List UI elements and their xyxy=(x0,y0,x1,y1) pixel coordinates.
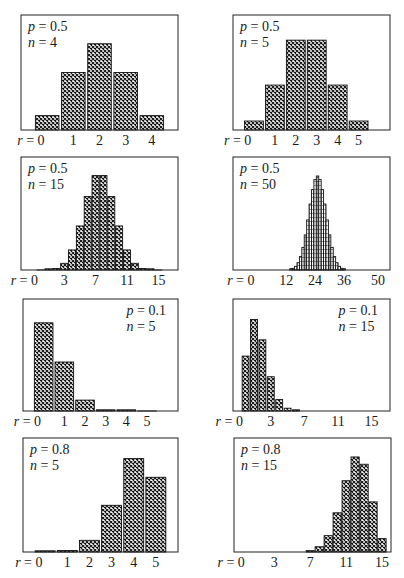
n-value-label: n = 50 xyxy=(240,177,279,193)
bar-r-3 xyxy=(307,40,326,130)
chart-panel-p0.1-n15: p = 0.1n = 15r = 0371115 xyxy=(233,299,390,411)
x-tick-label: 3 xyxy=(267,415,274,429)
x-tick-label: 50 xyxy=(371,274,385,288)
bar-r-2 xyxy=(88,44,112,130)
bar-r-1 xyxy=(251,319,258,411)
bar-r-0 xyxy=(242,356,249,411)
bar-r-11 xyxy=(342,481,350,552)
bar-r-8 xyxy=(100,176,107,270)
x-tick-label: 2 xyxy=(292,134,299,148)
n-value-label: n = 5 xyxy=(30,458,69,474)
bar-r-2 xyxy=(259,340,266,411)
bar-r-4 xyxy=(69,250,76,270)
bar-r-10 xyxy=(116,226,123,270)
n-value-label: n = 4 xyxy=(28,35,67,51)
x-tick-label: 3 xyxy=(102,415,109,429)
x-tick-label: 24 xyxy=(308,274,322,288)
bar-r-8 xyxy=(315,547,323,552)
p-value-label: p = 0.5 xyxy=(28,161,67,177)
bar-r-2 xyxy=(79,540,99,552)
x-tick-label: 3 xyxy=(108,556,115,570)
x-tick-label: 1 xyxy=(271,134,278,148)
x-tick-label: 7 xyxy=(307,556,314,570)
bar-r-1 xyxy=(62,73,86,131)
x-axis-label-r0: r = 0 xyxy=(227,274,254,288)
x-tick-label: 12 xyxy=(279,274,293,288)
bar-r-12 xyxy=(131,263,138,270)
x-tick-label: 4 xyxy=(148,134,155,148)
parameter-annotation: p = 0.5n = 4 xyxy=(28,19,67,51)
bar-r-3 xyxy=(61,263,68,270)
x-tick-label: 7 xyxy=(92,274,99,288)
bar-r-12 xyxy=(351,457,359,552)
bar-r-15 xyxy=(378,539,386,552)
x-axis-label-r0: r = 0 xyxy=(224,134,251,148)
x-tick-label: 15 xyxy=(151,274,165,288)
parameter-annotation: p = 0.5n = 5 xyxy=(240,19,279,51)
x-tick-label: 2 xyxy=(86,556,93,570)
p-value-label: p = 0.8 xyxy=(30,442,69,458)
x-axis-label-r0: r = 0 xyxy=(17,134,44,148)
chart-panel-p0.8-n15: p = 0.8n = 15r = 0371115 xyxy=(234,438,391,552)
x-tick-label: 7 xyxy=(301,415,308,429)
n-value-label: n = 5 xyxy=(127,319,166,335)
bar-r-3 xyxy=(102,505,122,552)
n-value-label: n = 15 xyxy=(241,458,280,474)
x-tick-label: 4 xyxy=(130,556,137,570)
bar-r-13 xyxy=(360,464,368,552)
bar-r-10 xyxy=(333,513,341,552)
x-tick-label: 5 xyxy=(152,556,159,570)
x-tick-label: 3 xyxy=(271,556,278,570)
p-value-label: p = 0.5 xyxy=(240,19,279,35)
bar-r-3 xyxy=(114,73,138,131)
x-tick-label: 1 xyxy=(61,415,68,429)
x-tick-label: 4 xyxy=(334,134,341,148)
bar-r-2 xyxy=(76,400,95,411)
bar-r-4 xyxy=(140,116,164,130)
chart-panel-p0.5-n15: p = 0.5n = 15r = 0371115 xyxy=(21,157,178,270)
x-tick-label: 11 xyxy=(120,274,133,288)
x-tick-label: 5 xyxy=(355,134,362,148)
bar-r-7 xyxy=(92,176,99,270)
p-value-label: p = 0.8 xyxy=(241,442,280,458)
x-tick-label: 3 xyxy=(122,134,129,148)
parameter-annotation: p = 0.5n = 50 xyxy=(240,161,279,193)
chart-panel-p0.8-n5: p = 0.8n = 5r = 012345 xyxy=(23,438,178,552)
n-value-label: n = 15 xyxy=(28,177,67,193)
bar-r-0 xyxy=(245,121,264,130)
x-tick-label: 2 xyxy=(82,415,89,429)
chart-panel-p0.1-n5: p = 0.1n = 5r = 012345 xyxy=(23,299,178,411)
parameter-annotation: p = 0.5n = 15 xyxy=(28,161,67,193)
bar-r-3 xyxy=(267,377,274,411)
x-tick-label: 15 xyxy=(365,415,379,429)
bar-r-5 xyxy=(76,226,83,270)
p-value-label: p = 0.1 xyxy=(339,303,378,319)
n-value-label: n = 15 xyxy=(339,319,378,335)
n-value-label: n = 5 xyxy=(240,35,279,51)
x-tick-label: 2 xyxy=(96,134,103,148)
x-tick-label: 3 xyxy=(313,134,320,148)
parameter-annotation: p = 0.8n = 15 xyxy=(241,442,280,474)
p-value-label: p = 0.1 xyxy=(127,303,166,319)
bar-r-9 xyxy=(324,536,332,552)
p-value-label: p = 0.5 xyxy=(28,19,67,35)
chart-panel-p0.5-n4: p = 0.5n = 4r = 01234 xyxy=(21,15,178,130)
x-axis-label-r0: r = 0 xyxy=(11,274,38,288)
bar-r-4 xyxy=(124,459,144,552)
bar-r-5 xyxy=(146,477,166,552)
bar-r-4 xyxy=(276,400,283,411)
bar-r-2 xyxy=(286,40,305,130)
x-tick-label: 36 xyxy=(337,274,351,288)
x-axis-label-r0: r = 0 xyxy=(216,415,243,429)
bar-r-1 xyxy=(265,85,284,130)
x-tick-label: 5 xyxy=(144,415,151,429)
bar-r-0 xyxy=(35,116,59,130)
bar-r-9 xyxy=(108,197,115,270)
x-axis-label-r0: r = 0 xyxy=(14,415,41,429)
bar-r-4 xyxy=(328,85,347,130)
x-tick-label: 1 xyxy=(64,556,71,570)
p-value-label: p = 0.5 xyxy=(240,161,279,177)
bar-r-1 xyxy=(55,362,74,411)
x-axis-label-r0: r = 0 xyxy=(15,556,42,570)
x-tick-label: 3 xyxy=(61,274,68,288)
